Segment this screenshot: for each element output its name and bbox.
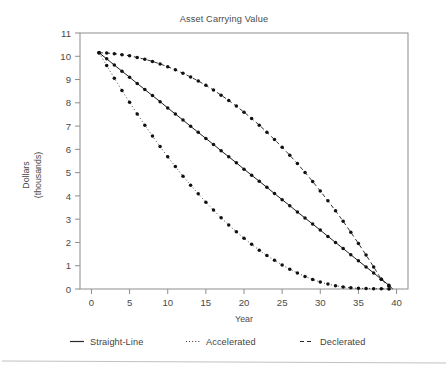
data-point-marker bbox=[181, 174, 185, 178]
x-tick-label: 0 bbox=[89, 297, 94, 308]
data-point-marker bbox=[204, 137, 208, 141]
data-point-marker bbox=[181, 118, 185, 122]
data-point-marker bbox=[166, 155, 170, 159]
plot-area-frame bbox=[80, 33, 408, 289]
data-point-marker bbox=[204, 200, 208, 204]
data-point-marker bbox=[219, 149, 223, 153]
legend-label: Declerated bbox=[320, 337, 365, 347]
data-point-marker bbox=[265, 130, 269, 134]
y-tick-label: 4 bbox=[66, 191, 72, 202]
data-point-marker bbox=[364, 287, 368, 291]
data-point-marker bbox=[189, 125, 193, 129]
x-tick-label: 35 bbox=[353, 297, 364, 308]
data-point-marker bbox=[280, 263, 284, 267]
data-point-marker bbox=[120, 69, 124, 73]
data-point-marker bbox=[372, 271, 376, 275]
data-point-marker bbox=[174, 112, 178, 116]
legend-item-accelerated[interactable]: Accelerated bbox=[186, 337, 256, 347]
data-point-marker bbox=[258, 248, 262, 252]
data-point-marker bbox=[387, 284, 391, 288]
series-line bbox=[99, 53, 393, 289]
x-tick-label: 20 bbox=[239, 297, 250, 308]
data-point-marker bbox=[181, 72, 185, 76]
data-point-marker bbox=[303, 275, 307, 279]
data-point-marker bbox=[143, 123, 147, 127]
data-point-marker bbox=[334, 209, 338, 213]
y-tick-label: 2 bbox=[66, 237, 71, 248]
data-point-marker bbox=[349, 253, 353, 256]
legend-label: Accelerated bbox=[206, 337, 256, 347]
data-point-marker bbox=[296, 210, 300, 214]
chart-legend: Straight-LineAcceleratedDeclerated bbox=[70, 337, 365, 347]
data-point-marker bbox=[235, 230, 239, 234]
data-point-marker bbox=[258, 180, 262, 184]
data-point-marker bbox=[357, 242, 361, 246]
data-point-marker bbox=[349, 230, 353, 234]
data-point-marker bbox=[334, 241, 338, 245]
y-tick-label: 0 bbox=[66, 284, 71, 295]
data-point-marker bbox=[380, 277, 384, 281]
data-point-marker bbox=[280, 146, 284, 150]
data-point-marker bbox=[151, 94, 155, 98]
data-point-marker bbox=[242, 237, 246, 241]
data-point-marker bbox=[235, 104, 239, 108]
y-axis-label: Dollars (thousands) bbox=[21, 152, 43, 199]
data-point-marker bbox=[242, 110, 246, 114]
asset-carrying-value-chart: Asset Carrying Value 01234567891011 0510… bbox=[0, 0, 448, 373]
data-point-marker bbox=[250, 243, 254, 247]
data-point-marker bbox=[196, 79, 200, 83]
data-point-marker bbox=[311, 278, 315, 282]
data-point-marker bbox=[265, 254, 269, 257]
data-point-marker bbox=[158, 100, 162, 104]
data-point-marker bbox=[372, 265, 376, 269]
data-point-marker bbox=[296, 162, 300, 166]
y-tick-label: 11 bbox=[61, 28, 71, 39]
data-point-marker bbox=[326, 282, 330, 286]
y-tick-label: 7 bbox=[66, 121, 71, 132]
data-point-marker bbox=[135, 82, 139, 86]
data-point-marker bbox=[212, 208, 216, 212]
data-point-marker bbox=[364, 253, 368, 257]
x-tick-label: 25 bbox=[277, 297, 288, 308]
data-point-marker bbox=[113, 63, 117, 67]
chart-title: Asset Carrying Value bbox=[180, 14, 269, 24]
data-point-marker bbox=[235, 161, 239, 165]
data-point-marker bbox=[151, 60, 155, 64]
data-point-marker bbox=[97, 51, 101, 55]
data-point-marker bbox=[212, 143, 216, 147]
data-point-marker bbox=[135, 112, 139, 116]
legend-item-declerated[interactable]: Declerated bbox=[300, 337, 365, 347]
series-straight-line bbox=[97, 51, 392, 289]
data-point-marker bbox=[311, 180, 315, 184]
y-tick-label: 6 bbox=[66, 144, 71, 155]
x-tick-label: 40 bbox=[391, 297, 402, 308]
data-point-marker bbox=[113, 52, 117, 56]
chart-figure: Asset Carrying Value 01234567891011 0510… bbox=[0, 0, 448, 373]
data-series-layer bbox=[97, 51, 392, 291]
y-tick-label: 8 bbox=[66, 97, 71, 108]
x-tick-label: 30 bbox=[315, 297, 326, 308]
data-point-marker bbox=[151, 134, 155, 138]
data-point-marker bbox=[311, 222, 315, 226]
y-axis-label-line1: Dollars bbox=[21, 161, 31, 189]
data-point-marker bbox=[166, 106, 170, 110]
legend-label: Straight-Line bbox=[90, 337, 143, 347]
data-point-marker bbox=[334, 284, 338, 288]
data-point-marker bbox=[258, 123, 262, 127]
data-point-marker bbox=[288, 153, 292, 157]
data-point-marker bbox=[113, 76, 117, 80]
data-point-marker bbox=[364, 265, 368, 269]
data-point-marker bbox=[196, 192, 200, 196]
data-point-marker bbox=[319, 280, 323, 284]
data-point-marker bbox=[189, 75, 193, 79]
data-point-marker bbox=[219, 216, 223, 220]
legend-item-straight-line[interactable]: Straight-Line bbox=[70, 337, 143, 347]
data-point-marker bbox=[105, 57, 109, 61]
data-point-marker bbox=[143, 88, 147, 92]
data-point-marker bbox=[250, 173, 254, 177]
y-tick-label: 1 bbox=[66, 260, 71, 271]
data-point-marker bbox=[166, 65, 170, 69]
x-tick-label: 5 bbox=[127, 297, 132, 308]
data-point-marker bbox=[196, 131, 200, 135]
data-point-marker bbox=[120, 53, 124, 57]
